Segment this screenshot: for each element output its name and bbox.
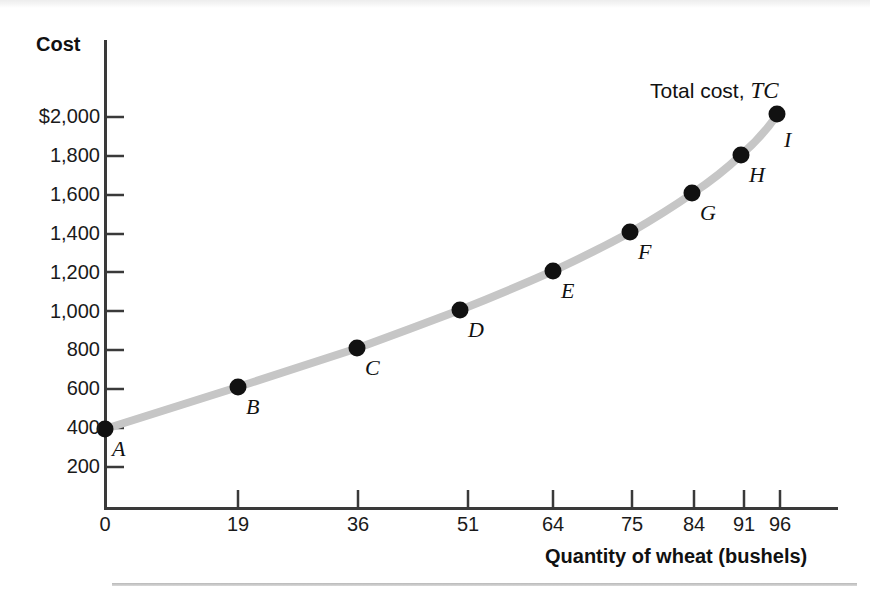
y-tick-label-2000: $2,000: [0, 105, 100, 128]
curve-annotation-text: Total cost,: [650, 79, 745, 102]
point-label-h: H: [749, 162, 765, 188]
point-label-g: G: [700, 200, 716, 226]
y-tick-label-1600: 1,600: [0, 183, 100, 206]
x-tick-label-36: 36: [338, 513, 378, 536]
page-bottom-rule: [112, 583, 857, 586]
data-point-g: [684, 185, 701, 202]
point-label-c: C: [365, 355, 380, 381]
point-label-i: I: [784, 127, 791, 153]
data-point-d: [452, 302, 469, 319]
data-point-markers: [97, 106, 786, 438]
x-tick-label-96: 96: [760, 513, 800, 536]
x-tick-label-64: 64: [533, 513, 573, 536]
y-tick-label-400: 400: [0, 416, 100, 439]
y-tick-label-1200: 1,200: [0, 261, 100, 284]
y-tick-label-800: 800: [0, 338, 100, 361]
x-tick-label-51: 51: [448, 513, 488, 536]
total-cost-curve: [105, 115, 777, 429]
point-label-b: B: [246, 394, 259, 420]
point-label-f: F: [638, 239, 651, 265]
data-point-i: [769, 106, 786, 123]
point-label-a: A: [112, 436, 125, 462]
chart-figure: Cost $2,000 1,800 1,600 1,400 1,200 1,00…: [0, 0, 870, 595]
x-tick-label-0: 0: [85, 513, 125, 536]
data-point-b: [230, 379, 247, 396]
point-label-d: D: [468, 317, 484, 343]
y-tick-label-1800: 1,800: [0, 144, 100, 167]
data-point-e: [545, 263, 562, 280]
curve-annotation: Total cost, TC: [650, 78, 779, 104]
x-tick-label-91: 91: [724, 513, 764, 536]
data-point-h: [733, 147, 750, 164]
x-tick-label-19: 19: [218, 513, 258, 536]
x-tick-label-75: 75: [612, 513, 652, 536]
x-tick-label-84: 84: [674, 513, 714, 536]
data-point-c: [349, 340, 366, 357]
x-axis-ticks: [238, 490, 780, 508]
y-tick-label-200: 200: [0, 455, 100, 478]
y-tick-label-1400: 1,400: [0, 222, 100, 245]
curve-annotation-symbol: TC: [750, 78, 778, 103]
y-axis-title: Cost: [36, 33, 80, 56]
point-label-e: E: [561, 278, 574, 304]
x-axis-title: Quantity of wheat (bushels): [545, 545, 807, 568]
data-point-f: [622, 224, 639, 241]
y-axis-ticks: [106, 117, 124, 467]
y-tick-label-1000: 1,000: [0, 300, 100, 323]
y-tick-label-600: 600: [0, 377, 100, 400]
